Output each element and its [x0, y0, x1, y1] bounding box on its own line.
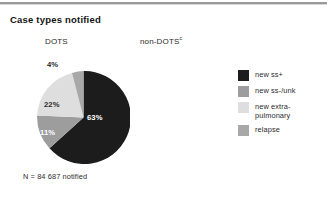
column-header-non-dots-label: non-DOTS — [140, 37, 179, 46]
column-header-non-dots-footnote: c — [179, 35, 182, 41]
legend-swatch-icon — [238, 86, 249, 97]
pie-chart — [37, 71, 130, 164]
legend-item: new ss+ — [238, 70, 324, 81]
pie-caption: N = 84 687 notified — [23, 172, 87, 181]
pie-label-relapse: 4% — [47, 60, 58, 69]
legend-swatch-icon — [238, 125, 249, 136]
page-title: Case types notified — [10, 14, 101, 25]
top-rule-divider-shadow — [0, 4, 327, 5]
legend: new ss+ new ss-/unk new extra- pulmonary… — [238, 70, 324, 141]
legend-item-label: relapse — [255, 125, 280, 135]
legend-item: new extra- pulmonary — [238, 102, 324, 120]
legend-item-label: new ss-/unk — [255, 86, 296, 96]
legend-item: relapse — [238, 125, 324, 136]
legend-item-label: new extra- pulmonary — [255, 102, 291, 120]
pie-chart-svg — [37, 71, 130, 164]
pie-label-new-ss-plus: 63% — [87, 113, 103, 122]
pie-label-new-ss-minus-unk: 11% — [40, 128, 55, 137]
legend-swatch-icon — [238, 102, 249, 113]
legend-item: new ss-/unk — [238, 86, 324, 97]
figure-panel: Case types notified DOTS non-DOTSc 63% 1… — [0, 0, 327, 197]
legend-swatch-icon — [238, 70, 249, 81]
column-header-non-dots: non-DOTSc — [140, 37, 182, 46]
pie-label-new-extra-pulmonary: 22% — [44, 100, 60, 109]
column-header-dots-label: DOTS — [45, 37, 68, 46]
legend-item-label: new ss+ — [255, 70, 283, 80]
column-header-dots: DOTS — [45, 37, 68, 46]
